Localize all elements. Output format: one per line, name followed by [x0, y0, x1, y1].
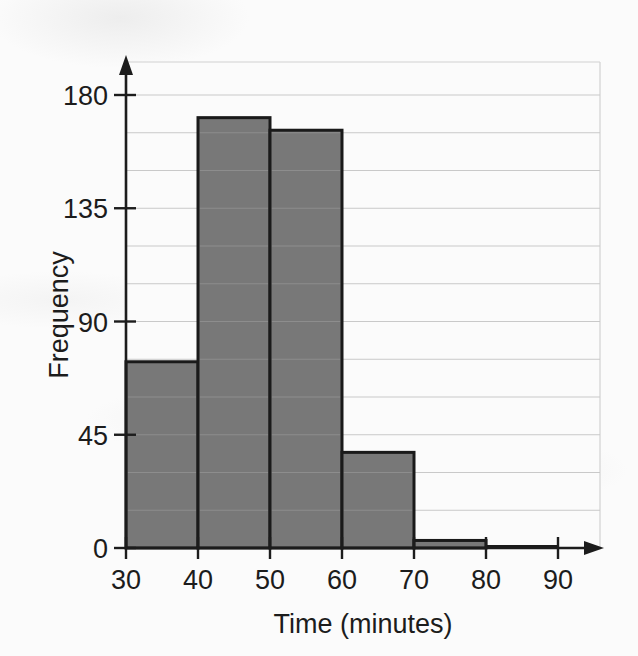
- histogram-bar: [270, 130, 342, 548]
- histogram-bar: [126, 362, 198, 548]
- histogram-plot: 04590135180 30405060708090 Time (minutes…: [0, 0, 638, 656]
- bar-fill: [126, 362, 198, 548]
- y-axis-tick-label: 135: [63, 194, 108, 224]
- x-axis-tick-labels: 30405060708090: [111, 565, 573, 595]
- histogram-figure: 04590135180 30405060708090 Time (minutes…: [0, 0, 638, 656]
- y-axis-title: Frequency: [44, 251, 74, 379]
- y-axis-tick-label: 45: [78, 421, 108, 451]
- bar-fill: [198, 118, 270, 548]
- x-axis-tick-label: 70: [399, 565, 429, 595]
- y-axis-tick-label: 180: [63, 81, 108, 111]
- bar-fill: [342, 452, 414, 548]
- x-axis-tick-label: 50: [255, 565, 285, 595]
- x-axis-tick-label: 40: [183, 565, 213, 595]
- y-axis-tick-label: 90: [78, 308, 108, 338]
- histogram-bar: [342, 452, 414, 548]
- x-axis-title: Time (minutes): [273, 609, 452, 639]
- histogram-bar: [198, 118, 270, 548]
- x-axis-tick-label: 30: [111, 565, 141, 595]
- bar-fill: [270, 130, 342, 548]
- x-axis-tick-label: 90: [543, 565, 573, 595]
- x-axis-tick-label: 60: [327, 565, 357, 595]
- x-axis-tick-label: 80: [471, 565, 501, 595]
- y-axis-tick-label: 0: [93, 534, 108, 564]
